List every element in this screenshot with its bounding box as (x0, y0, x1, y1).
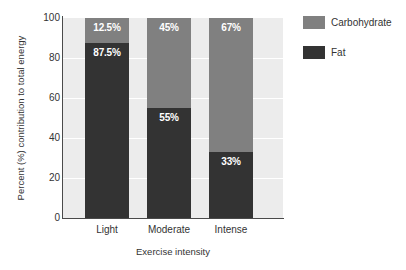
y-tick-80: 80 (36, 53, 60, 63)
legend-item-fat[interactable]: Fat (303, 46, 403, 60)
y-tick-20: 20 (36, 173, 60, 183)
bar-moderate-fat-segment[interactable]: 55% (147, 108, 191, 218)
x-tick-intense: Intense (196, 224, 266, 236)
y-axis-title: Percent (%) contribution to total energy (14, 8, 28, 228)
legend-swatch-fat-icon (303, 46, 325, 59)
legend-item-carbohydrate[interactable]: Carbohydrate (303, 16, 403, 30)
bar-light[interactable]: 12.5% 87.5% (85, 18, 129, 218)
y-tick-0: 0 (36, 213, 60, 223)
bar-intense-carbohydrate-segment[interactable]: 67% (209, 18, 253, 152)
x-tick-moderate: Moderate (134, 224, 204, 236)
y-axis-line (62, 16, 63, 219)
y-axis-tick-labels: 100 80 60 40 20 0 (32, 0, 60, 270)
bar-moderate[interactable]: 45% 55% (147, 18, 191, 218)
bar-light-fat-segment[interactable]: 87.5% (85, 43, 129, 218)
legend-label-carbohydrate: Carbohydrate (331, 16, 392, 29)
bar-intense[interactable]: 67% 33% (209, 18, 253, 218)
x-axis-line (62, 218, 284, 219)
bar-intense-carbohydrate-label: 67% (209, 22, 253, 33)
plot-area: 12.5% 87.5% 45% 55% 67% 33% (63, 18, 283, 218)
bar-moderate-fat-label: 55% (147, 112, 191, 123)
legend-swatch-carbohydrate-icon (303, 16, 325, 29)
x-axis-title: Exercise intensity (63, 246, 283, 258)
chart-legend: Carbohydrate Fat (303, 16, 403, 76)
bar-moderate-carbohydrate-label: 45% (147, 22, 191, 33)
bar-light-fat-label: 87.5% (85, 47, 129, 58)
x-tick-light: Light (72, 224, 142, 236)
bar-intense-fat-segment[interactable]: 33% (209, 152, 253, 218)
y-tick-40: 40 (36, 133, 60, 143)
bar-light-carbohydrate-label: 12.5% (85, 22, 129, 33)
bar-moderate-carbohydrate-segment[interactable]: 45% (147, 18, 191, 108)
y-tick-100: 100 (36, 13, 60, 23)
bar-light-carbohydrate-segment[interactable]: 12.5% (85, 18, 129, 43)
y-tick-60: 60 (36, 93, 60, 103)
bar-intense-fat-label: 33% (209, 156, 253, 167)
legend-label-fat: Fat (331, 46, 345, 59)
stacked-bar-chart: Percent (%) contribution to total energy… (0, 0, 406, 270)
